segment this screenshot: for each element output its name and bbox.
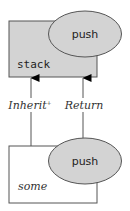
diagram-canvas: stack push Inherit+ Return some push: [0, 0, 130, 211]
some-push-label: push: [72, 155, 99, 168]
inherit-label: Inherit+: [7, 99, 51, 112]
some-label: some: [18, 180, 48, 193]
return-edge: Return: [63, 78, 105, 138]
return-label: Return: [64, 99, 104, 112]
stack-push-label: push: [72, 28, 99, 41]
inherit-edge: Inherit+: [5, 78, 57, 146]
stack-label: stack: [17, 58, 50, 71]
stack-push-method[interactable]: push: [49, 11, 122, 57]
some-push-method[interactable]: push: [49, 138, 122, 184]
